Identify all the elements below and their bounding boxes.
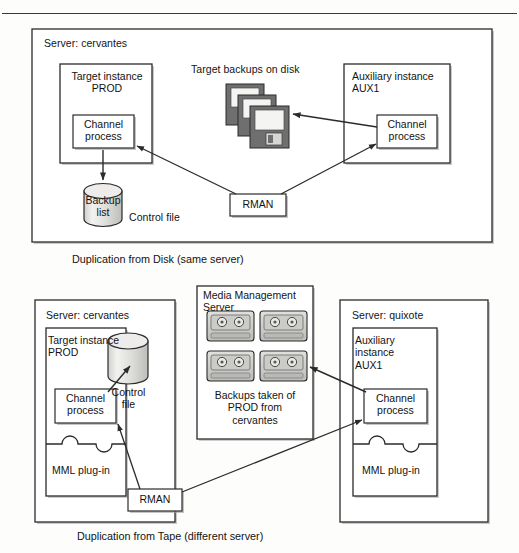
mml-plugin-left-label: MML plug-in <box>52 464 110 477</box>
tape-rman-label: RMAN <box>128 493 182 505</box>
tape-cartridge-4 <box>260 351 307 381</box>
disk-panel-caption: Duplication from Disk (same server) <box>72 253 244 265</box>
disk-aux-instance-label: Auxiliary instance AUX1 <box>348 70 450 95</box>
tape-aux-channel-label: Channel process <box>365 392 426 417</box>
target-backups-on-disk-label: Target backups on disk <box>191 63 300 76</box>
tape-cartridge-3 <box>207 351 254 381</box>
tape-server-left-label: Server: cervantes <box>46 309 129 322</box>
disk-rman-label: RMAN <box>230 198 286 210</box>
disk-aux-channel-label: Channel process <box>378 118 436 143</box>
tape-target-instance-label: Target instance PROD <box>48 334 130 359</box>
disk-target-instance-label: Target instance PROD <box>62 70 152 95</box>
tape-control-file-label: Control file <box>106 386 151 411</box>
tape-cartridge-2 <box>260 311 307 341</box>
mms-backups-caption: Backups taken of PROD from cervantes <box>199 389 311 426</box>
media-management-server-label: Media Management Server <box>199 289 312 314</box>
figure-page: Server: cervantes Target instance PROD C… <box>0 0 519 553</box>
tape-server-right-label: Server: quixote <box>352 309 423 322</box>
tape-panel-caption: Duplication from Tape (different server) <box>77 530 263 542</box>
tape-aux-instance-label: Auxiliary instance AUX1 <box>355 334 437 371</box>
disk-target-channel-label: Channel process <box>74 118 133 143</box>
tape-cartridge-1 <box>207 311 254 341</box>
disk-server-label: Server: cervantes <box>44 37 127 50</box>
mml-plugin-right-label: MML plug-in <box>362 464 420 477</box>
disk-control-file-label: Control file <box>129 211 180 224</box>
backup-list-label: Backup list <box>80 194 126 218</box>
